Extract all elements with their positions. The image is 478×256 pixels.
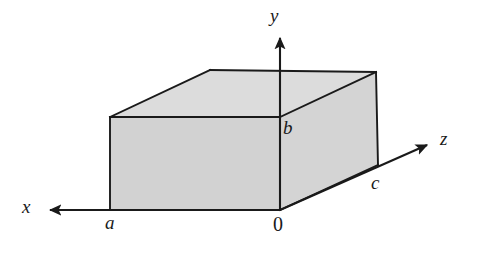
edge-label-c: c	[371, 173, 379, 192]
box-faces	[110, 70, 378, 210]
box-diagram-svg	[0, 0, 478, 256]
axis-label-x: x	[22, 197, 30, 216]
axis-label-z: z	[440, 129, 447, 148]
edge-label-b: b	[283, 118, 293, 137]
box-front-face	[110, 117, 280, 210]
origin-label: 0	[273, 214, 283, 234]
edge-label-a: a	[105, 213, 115, 232]
axis-label-y: y	[270, 6, 278, 25]
figure-container: y x z a b c 0	[0, 0, 478, 256]
